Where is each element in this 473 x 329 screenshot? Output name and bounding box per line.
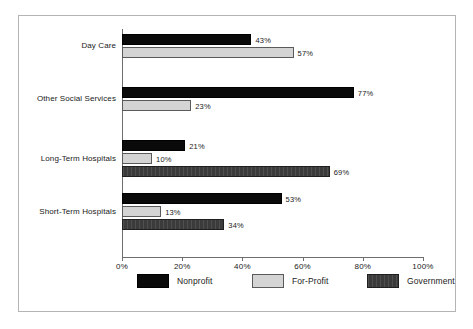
legend-swatch-icon xyxy=(367,274,399,288)
x-tick-label: 0% xyxy=(102,262,142,271)
bar-value-label: 10% xyxy=(156,155,172,164)
bar-value-label: 57% xyxy=(298,49,314,58)
bar-for-profit xyxy=(122,47,294,58)
bar-nonprofit xyxy=(122,87,354,98)
category-label: Other Social Services xyxy=(37,94,116,103)
x-tick-label: 40% xyxy=(222,262,262,271)
x-tick-mark xyxy=(303,257,304,261)
chart-legend: NonprofitFor-ProfitGovernment xyxy=(19,274,457,298)
bar-nonprofit xyxy=(122,34,251,45)
bar-government xyxy=(122,166,330,177)
x-tick-mark xyxy=(182,257,183,261)
bar-value-label: 21% xyxy=(189,142,205,151)
bar-value-label: 53% xyxy=(286,195,302,204)
x-tick-mark xyxy=(423,257,424,261)
plot-area: 0%20%40%60%80%100% Day CareOther Social … xyxy=(19,16,457,313)
x-tick-mark xyxy=(363,257,364,261)
legend-swatch-icon xyxy=(137,274,169,288)
bar-value-label: 77% xyxy=(358,89,374,98)
bar-for-profit xyxy=(122,100,191,111)
bar-for-profit xyxy=(122,153,152,164)
x-tick-label: 60% xyxy=(283,262,323,271)
bar-value-label: 69% xyxy=(334,168,350,177)
bar-for-profit xyxy=(122,206,161,217)
legend-label: Nonprofit xyxy=(177,276,212,286)
category-label: Short-Term Hospitals xyxy=(39,207,116,216)
bar-value-label: 43% xyxy=(255,36,271,45)
x-tick-mark xyxy=(122,257,123,261)
x-tick-label: 100% xyxy=(403,262,443,271)
category-label: Day Care xyxy=(81,41,116,50)
legend-label: For-Profit xyxy=(292,276,328,286)
x-tick-label: 20% xyxy=(162,262,202,271)
bar-value-label: 34% xyxy=(228,221,244,230)
x-axis-line xyxy=(122,257,423,258)
category-label: Long-Term Hospitals xyxy=(41,154,116,163)
bar-nonprofit xyxy=(122,140,185,151)
bar-government xyxy=(122,219,224,230)
legend-label: Government xyxy=(407,276,455,286)
chart-figure: 0%20%40%60%80%100% Day CareOther Social … xyxy=(18,15,456,312)
bar-value-label: 23% xyxy=(195,102,211,111)
bar-value-label: 13% xyxy=(165,208,181,217)
x-tick-label: 80% xyxy=(343,262,383,271)
x-tick-mark xyxy=(242,257,243,261)
legend-swatch-icon xyxy=(252,274,284,288)
bar-nonprofit xyxy=(122,193,282,204)
